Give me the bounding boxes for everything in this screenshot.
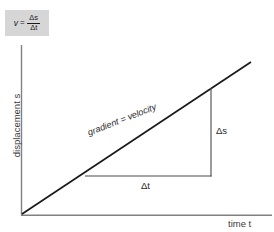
- physics-displacement-time-figure: v = Δs Δt displacement s time t gradient…: [0, 0, 274, 232]
- x-axis-title: time t: [228, 218, 251, 229]
- y-axis-title: displacement s: [11, 71, 22, 181]
- displacement-line: [22, 62, 251, 214]
- delta-t-label: Δt: [141, 180, 150, 191]
- delta-s-label: Δs: [216, 125, 227, 136]
